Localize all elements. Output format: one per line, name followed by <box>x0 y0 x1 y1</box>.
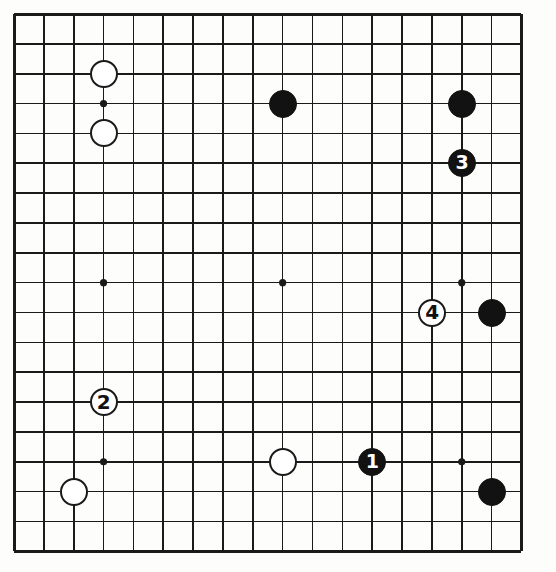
star-point <box>279 279 286 286</box>
white-stone[interactable] <box>90 119 118 147</box>
star-point <box>100 279 107 286</box>
white-numbered-stone-4[interactable]: 4 <box>418 299 446 327</box>
star-point <box>100 458 107 465</box>
star-point <box>100 100 107 107</box>
star-point <box>458 458 465 465</box>
stone-move-number: 4 <box>425 302 438 322</box>
go-diagram-figure: 3421 <box>0 0 556 572</box>
stone-move-number: 3 <box>455 153 468 172</box>
stone-move-number: 1 <box>366 452 379 471</box>
star-point <box>458 279 465 286</box>
white-stone[interactable] <box>269 448 297 476</box>
white-numbered-stone-2[interactable]: 2 <box>90 388 118 416</box>
caption-strip <box>0 552 556 572</box>
black-numbered-stone-1[interactable]: 1 <box>358 448 386 476</box>
white-stone[interactable] <box>90 60 118 88</box>
black-stone[interactable] <box>478 299 506 327</box>
black-stone[interactable] <box>478 478 506 506</box>
stone-move-number: 2 <box>97 392 110 412</box>
black-numbered-stone-3[interactable]: 3 <box>448 149 476 177</box>
white-stone[interactable] <box>60 478 88 506</box>
black-stone[interactable] <box>269 90 297 118</box>
black-stone[interactable] <box>448 90 476 118</box>
